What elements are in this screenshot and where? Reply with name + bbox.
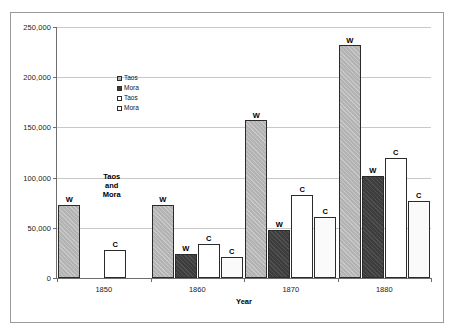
bar-group: WWCC xyxy=(338,27,432,278)
y-tick-label: 100,000 xyxy=(23,173,51,182)
x-tick-mark xyxy=(431,278,432,282)
bar-value-label: W xyxy=(159,196,166,204)
legend-item[interactable]: Taos xyxy=(117,95,139,102)
y-tick-label: 0 xyxy=(47,274,51,283)
legend-item[interactable]: Taos xyxy=(117,75,139,82)
bar-value-label: C xyxy=(113,241,118,249)
y-tick-label: 200,000 xyxy=(23,73,51,82)
x-tick-mark xyxy=(244,278,245,282)
bar[interactable]: C xyxy=(104,250,126,278)
bar-value-label: C xyxy=(393,149,398,157)
bar-value-label: W xyxy=(182,245,189,253)
bar-value-label: C xyxy=(206,235,211,243)
bar[interactable]: W xyxy=(362,176,384,278)
bar[interactable]: W xyxy=(339,45,361,278)
bar[interactable]: W xyxy=(245,120,267,278)
legend-swatch-icon xyxy=(117,96,122,101)
bar-group: WC xyxy=(57,27,151,278)
bar-value-label: W xyxy=(346,37,353,45)
bar[interactable]: W xyxy=(152,205,174,278)
x-tick-label: 1880 xyxy=(376,285,393,294)
bar[interactable]: C xyxy=(221,257,243,278)
y-tick-label: 50,000 xyxy=(27,223,51,232)
legend-swatch-icon xyxy=(117,106,122,111)
x-tick-label: 1860 xyxy=(189,285,206,294)
bar-value-label: W xyxy=(66,196,73,204)
bar-group: WWCC xyxy=(151,27,245,278)
bar-value-label: W xyxy=(369,167,376,175)
legend-swatch-icon xyxy=(117,86,122,91)
bar[interactable]: C xyxy=(198,244,220,278)
x-tick-mark xyxy=(151,278,152,282)
x-tick-label: 1850 xyxy=(95,285,112,294)
legend-label: Mora xyxy=(124,85,139,92)
y-tick-label: 150,000 xyxy=(23,123,51,132)
bar[interactable]: W xyxy=(175,254,197,278)
bar[interactable]: C xyxy=(408,201,430,278)
bar[interactable]: C xyxy=(385,158,407,278)
bar[interactable]: W xyxy=(268,230,290,278)
legend-label: Taos xyxy=(124,95,138,102)
bar-value-label: C xyxy=(416,192,421,200)
bar-group: WWCC xyxy=(244,27,338,278)
x-tick-mark xyxy=(57,278,58,282)
legend-item[interactable]: Mora xyxy=(117,105,139,112)
x-tick-mark xyxy=(338,278,339,282)
bar[interactable]: W xyxy=(58,205,80,278)
annotation-taos-and-mora: Taos and Mora xyxy=(103,172,121,200)
x-axis-title: Year xyxy=(236,297,252,306)
legend-swatch-icon xyxy=(117,76,122,81)
bar[interactable]: C xyxy=(314,217,336,278)
x-tick-label: 1870 xyxy=(282,285,299,294)
legend-item[interactable]: Mora xyxy=(117,85,139,92)
bar[interactable]: C xyxy=(291,195,313,278)
bar-value-label: C xyxy=(300,186,305,194)
chart-legend: TaosMoraTaosMora xyxy=(117,75,139,112)
bar-value-label: C xyxy=(229,248,234,256)
bar-value-label: C xyxy=(323,208,328,216)
bar-value-label: W xyxy=(253,112,260,120)
bar-value-label: W xyxy=(276,221,283,229)
chart-figure: 050,000100,000150,000200,000250,000 WCWW… xyxy=(10,12,444,323)
legend-label: Mora xyxy=(124,105,139,112)
y-tick-label: 250,000 xyxy=(23,23,51,32)
plot-area: 050,000100,000150,000200,000250,000 WCWW… xyxy=(57,27,431,278)
legend-label: Taos xyxy=(124,75,138,82)
